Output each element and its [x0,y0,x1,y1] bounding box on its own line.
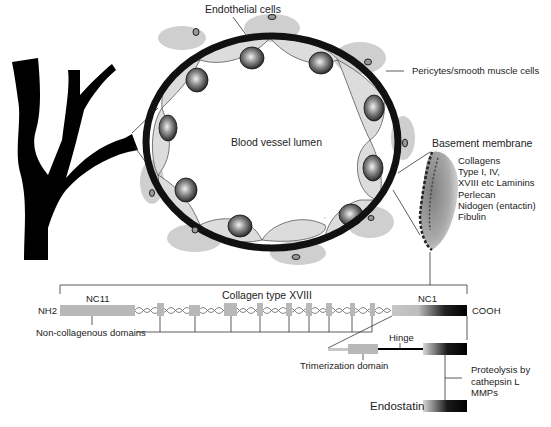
basement-membrane-components: Collagens Type I, IV, XVIII etc Laminins… [458,155,536,222]
label-proteolysis: Proteolysis by cathepsin L MMPs [471,364,530,399]
label-collagen-title: Collagen type XVIII [222,290,312,301]
label-lumen: Blood vessel lumen [231,137,322,148]
component-item: Perlecan [458,189,536,200]
proteolysis-line: cathepsin L [471,376,530,388]
component-item: Nidogen (entactin) [458,200,536,211]
label-endostatin: Endostatin [370,401,424,413]
basement-membrane-blob [420,151,458,250]
label-nc11: NC11 [86,294,110,304]
label-endothelial-cells: Endothelial cells [205,4,281,15]
label-nc1: NC1 [418,294,437,304]
label-basement-membrane: Basement membrane [432,138,532,149]
component-item: Fibulin [458,211,536,222]
component-item: XVIII etc Laminins [458,177,536,188]
component-item: Collagens [458,155,536,166]
label-cooh: COOH [472,306,501,316]
label-trimerization: Trimerization domain [300,361,388,371]
proteolysis-line: Proteolysis by [471,364,530,376]
label-hinge: Hinge [389,333,414,343]
endostatin-bar [423,400,467,412]
vascular-tree [12,58,138,260]
label-nh2: NH2 [38,306,57,316]
component-item: Type I, IV, [458,166,536,177]
label-non-collagenous: Non-collagenous domains [36,328,146,338]
proteolysis-line: MMPs [471,387,530,399]
label-pericytes: Pericytes/smooth muscle cells [412,66,539,76]
